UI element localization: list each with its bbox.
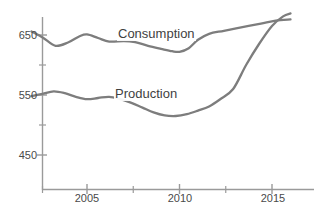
series-label-production: Production: [114, 87, 178, 101]
y-tick-label-450: 450: [11, 149, 37, 161]
axes-group: [43, 17, 315, 190]
y-tick-label-550: 550: [11, 89, 37, 101]
x-tick-label-2010: 2010: [157, 192, 203, 204]
series-label-consumption: Consumption: [117, 27, 196, 41]
y-tick-label-650: 650: [11, 29, 37, 41]
x-tick-label-2015: 2015: [250, 192, 296, 204]
x-tick-label-2005: 2005: [64, 192, 110, 204]
line-chart: 650 550 450 2005 2010 2015 Consumption P…: [0, 0, 316, 209]
